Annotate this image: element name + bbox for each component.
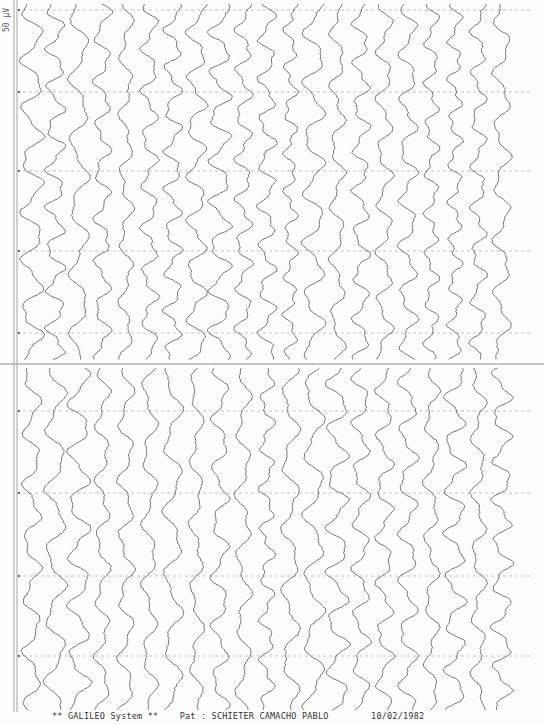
printout-footer: ** GALILEO System ** Pat : SCHIETER CAMA… — [52, 711, 424, 721]
time-marker-tick — [18, 170, 20, 172]
eeg-channel-trace — [469, 4, 488, 360]
time-marker-tick — [18, 410, 20, 412]
time-marker-tick — [18, 250, 20, 252]
eeg-channel-trace — [188, 368, 205, 710]
eeg-channel-trace — [233, 4, 253, 360]
eeg-channel-trace — [67, 4, 90, 360]
eeg-printout-page: 50 μV ** GALILEO System ** Pat : SCHIETE… — [0, 0, 544, 725]
footer-patient-name: SCHIETER CAMACHO PABLO — [212, 711, 329, 721]
eeg-channel-trace — [490, 368, 514, 710]
eeg-channel-trace — [375, 4, 395, 360]
eeg-channel-trace — [234, 368, 253, 710]
eeg-channel-trace — [302, 368, 326, 710]
eeg-channel-trace — [423, 4, 440, 360]
time-marker-tick — [18, 9, 20, 11]
eeg-channel-trace — [374, 368, 395, 710]
eeg-channel-trace — [397, 4, 419, 360]
eeg-traces-canvas — [0, 0, 544, 725]
eeg-channel-trace — [351, 368, 372, 710]
eeg-channel-trace — [351, 4, 372, 360]
eeg-channel-trace — [281, 368, 301, 710]
eeg-channel-trace — [93, 368, 111, 710]
eeg-channel-trace — [470, 368, 488, 710]
eeg-channel-trace — [328, 4, 346, 360]
eeg-channel-trace — [118, 4, 135, 360]
amplitude-scale-label: 50 μV — [2, 2, 16, 32]
eeg-channel-trace — [423, 368, 441, 710]
time-marker-tick — [18, 492, 20, 494]
eeg-channel-trace — [442, 368, 467, 710]
time-marker-tick — [18, 655, 20, 657]
footer-patient-label: Pat : — [180, 711, 207, 721]
eeg-channel-trace — [116, 368, 135, 710]
eeg-channel-trace — [139, 4, 159, 360]
eeg-channel-trace — [210, 368, 231, 710]
footer-system-name: ** GALILEO System ** — [52, 711, 158, 721]
eeg-channel-trace — [492, 4, 513, 360]
eeg-channel-trace — [44, 4, 66, 360]
eeg-channel-trace — [19, 4, 45, 360]
eeg-channel-trace — [258, 368, 276, 710]
eeg-channel-trace — [301, 4, 326, 360]
eeg-channel-trace — [282, 4, 299, 360]
time-marker-tick — [18, 91, 20, 93]
eeg-channel-trace — [92, 4, 113, 360]
time-marker-tick — [18, 332, 20, 334]
eeg-channel-trace — [66, 368, 92, 710]
eeg-channel-trace — [325, 368, 350, 710]
eeg-channel-trace — [163, 4, 184, 360]
eeg-channel-trace — [207, 4, 232, 360]
eeg-channel-trace — [397, 368, 420, 710]
time-marker-tick — [18, 575, 20, 577]
eeg-channel-trace — [161, 368, 184, 710]
eeg-channel-trace — [185, 4, 208, 360]
eeg-channel-trace — [43, 368, 68, 710]
footer-date: 10/02/1982 — [371, 711, 424, 721]
eeg-channel-trace — [21, 368, 43, 710]
eeg-channel-trace — [256, 4, 277, 360]
eeg-channel-trace — [446, 4, 464, 360]
eeg-channel-trace — [141, 368, 159, 710]
